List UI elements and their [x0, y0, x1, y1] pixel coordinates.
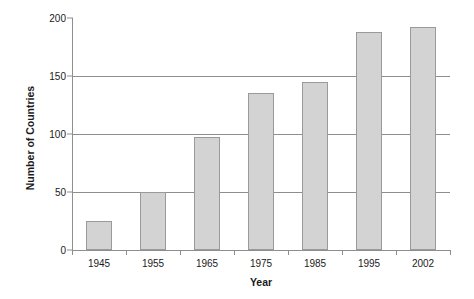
x-axis-tickmark — [180, 250, 181, 255]
x-axis-tickmark — [396, 250, 397, 255]
x-axis-tickmark — [126, 250, 127, 255]
x-axis-title: Year — [72, 276, 450, 288]
bar — [86, 221, 112, 250]
x-axis-tickmark — [234, 250, 235, 255]
y-axis-title-label: Number of Countries — [24, 86, 36, 190]
x-axis-tickmark — [72, 250, 73, 255]
x-axis-tick-label: 2002 — [412, 258, 434, 269]
y-axis-tick-label: 150 — [40, 71, 66, 82]
bar — [194, 137, 220, 250]
bar — [356, 32, 382, 250]
y-axis-tick-label: 100 — [40, 129, 66, 140]
y-axis-tick-label: 200 — [40, 13, 66, 24]
bar — [248, 93, 274, 250]
x-axis-tick-label: 1995 — [358, 258, 380, 269]
x-axis-tick-label: 1945 — [88, 258, 110, 269]
x-axis-tick-labels: 1945195519651975198519952002 — [72, 258, 450, 274]
y-axis-title: Number of Countries — [19, 28, 41, 248]
x-axis-tick-label: 1985 — [304, 258, 326, 269]
bar-chart: Number of Countries 050100150200 1945195… — [0, 0, 474, 299]
bar — [140, 192, 166, 250]
x-axis-line — [72, 250, 450, 251]
x-axis-tickmark — [450, 250, 451, 255]
x-axis-tick-label: 1965 — [196, 258, 218, 269]
x-axis-tickmark — [342, 250, 343, 255]
bar — [410, 27, 436, 250]
bar-series — [72, 18, 450, 250]
y-axis-tick-label: 50 — [40, 187, 66, 198]
y-axis-tick-labels: 050100150200 — [40, 0, 66, 299]
x-axis-tick-label: 1955 — [142, 258, 164, 269]
bar — [302, 82, 328, 250]
x-axis-tickmark — [288, 250, 289, 255]
y-axis-tick-label: 0 — [40, 245, 66, 256]
x-axis-tick-label: 1975 — [250, 258, 272, 269]
